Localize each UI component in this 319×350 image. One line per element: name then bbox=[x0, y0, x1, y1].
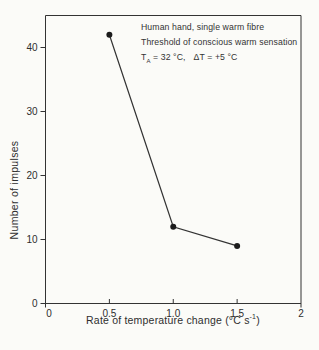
annotation-block: Human hand, single warm fibre Threshold … bbox=[141, 20, 297, 68]
data-point bbox=[106, 32, 112, 38]
x-axis-title-text: Rate of temperature change (°C s bbox=[86, 314, 250, 326]
y-tick-label: 30 bbox=[26, 106, 38, 117]
annotation-line-1: Human hand, single warm fibre bbox=[141, 20, 297, 35]
y-tick-label: 40 bbox=[26, 42, 38, 53]
data-point bbox=[234, 243, 240, 249]
y-tick-label: 0 bbox=[32, 298, 38, 309]
y-tick-label: 10 bbox=[26, 234, 38, 245]
x-axis-title-closing: ) bbox=[256, 314, 260, 326]
annotation-line-2: Threshold of conscious warm sensation bbox=[141, 35, 297, 50]
annotation-line-3: TA = 32 °C,ΔT = +5 °C bbox=[141, 50, 297, 69]
y-tick-label: 20 bbox=[26, 170, 38, 181]
data-point bbox=[170, 224, 176, 230]
figure: 01020304000.51.01.52 Human hand, single … bbox=[0, 0, 319, 350]
y-axis-title: Number of impulses bbox=[8, 141, 20, 240]
adapting-temp-value: = 32 °C, bbox=[151, 52, 186, 62]
delta-temp-value: ΔT = +5 °C bbox=[194, 52, 238, 62]
x-axis-title: Rate of temperature change (°C s-1) bbox=[45, 313, 301, 326]
